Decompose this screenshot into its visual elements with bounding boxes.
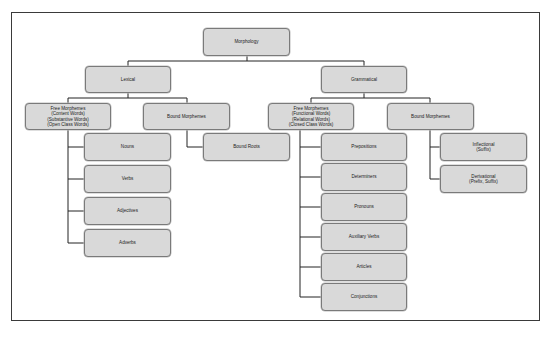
node-adjectives: Adjectives — [84, 197, 171, 225]
node-label: Free Morphemes (Content Words) (Substant… — [47, 106, 89, 127]
node-label: Pronouns — [354, 204, 374, 209]
node-bound-roots: Bound Roots — [203, 133, 290, 161]
node-label: Free Morphemes (Functional Words) (Relat… — [289, 106, 334, 127]
node-label: Bound Morphemes — [167, 114, 206, 119]
node-label: Auxiliary Verbs — [349, 234, 379, 239]
node-verbs: Verbs — [84, 165, 171, 193]
node-lexical-bound-morphemes: Bound Morphemes — [143, 103, 230, 130]
node-label: Bound Roots — [233, 144, 260, 149]
node-label: Adverbs — [119, 240, 136, 245]
node-pronouns: Pronouns — [321, 193, 407, 221]
node-inflectional: Inflectional (Suffix) — [440, 133, 527, 161]
node-label: Bound Morphemes — [411, 114, 450, 119]
node-label: Nouns — [121, 144, 134, 149]
node-label: Prepositions — [351, 144, 376, 149]
node-label: Articles — [356, 264, 371, 269]
node-label: Adjectives — [117, 208, 138, 213]
node-grammatical: Grammatical — [321, 66, 407, 93]
node-grammatical-bound-morphemes: Bound Morphemes — [387, 103, 474, 130]
node-label: Determiners — [351, 174, 376, 179]
node-label: Lexical — [121, 77, 135, 82]
node-label: Verbs — [122, 176, 134, 181]
node-lexical: Lexical — [85, 66, 171, 93]
node-label: Inflectional (Suffix) — [473, 142, 495, 152]
node-morphology: Morphology — [203, 28, 290, 56]
node-grammatical-free-morphemes: Free Morphemes (Functional Words) (Relat… — [268, 103, 354, 130]
node-nouns: Nouns — [84, 133, 171, 161]
node-adverbs: Adverbs — [84, 229, 171, 257]
node-auxiliary-verbs: Auxiliary Verbs — [321, 223, 407, 251]
node-label: Grammatical — [351, 77, 377, 82]
node-articles: Articles — [321, 253, 407, 281]
node-label: Morphology — [234, 39, 258, 44]
node-conjunctions: Conjunctions — [321, 283, 407, 311]
node-lexical-free-morphemes: Free Morphemes (Content Words) (Substant… — [25, 103, 111, 130]
node-prepositions: Prepositions — [321, 133, 407, 161]
node-label: Derivational (Prefix, Suffix) — [469, 174, 498, 184]
node-derivational: Derivational (Prefix, Suffix) — [440, 165, 527, 193]
node-determiners: Determiners — [321, 163, 407, 191]
node-label: Conjunctions — [351, 294, 378, 299]
